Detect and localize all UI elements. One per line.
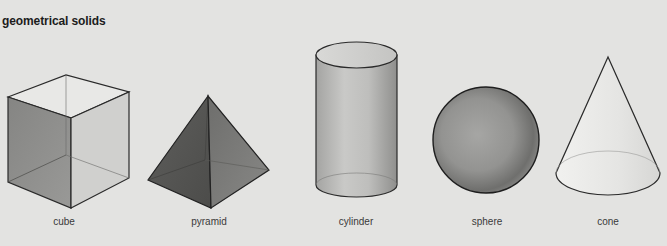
sphere-shape <box>433 87 539 193</box>
cylinder-label: cylinder <box>339 216 373 227</box>
cube-shape <box>8 75 129 208</box>
cone-shape <box>556 57 660 195</box>
solids-illustration <box>0 0 667 246</box>
cone-label: cone <box>597 216 619 227</box>
pyramid-label: pyramid <box>191 216 227 227</box>
pyramid-shape <box>148 96 269 208</box>
sphere-label: sphere <box>472 216 503 227</box>
cylinder-shape <box>316 42 397 197</box>
cube-label: cube <box>53 216 75 227</box>
